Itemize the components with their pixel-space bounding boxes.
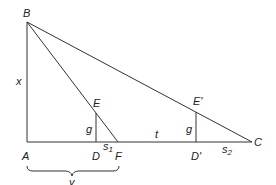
label-x: x: [15, 75, 22, 87]
label-s2: s2: [222, 143, 233, 157]
label-e: E: [93, 97, 101, 109]
label-f: F: [115, 150, 123, 162]
label-y: y: [68, 176, 76, 185]
label-c: C: [254, 136, 262, 148]
label-g-right: g: [186, 123, 193, 135]
segment-bc: [27, 22, 252, 142]
label-d-prime: D': [191, 150, 202, 162]
y-brace: [27, 166, 119, 176]
label-e-prime: E': [193, 95, 203, 107]
label-a: A: [21, 150, 29, 162]
label-b: B: [23, 7, 30, 19]
geometry-diagram: B A D F D' C E E' x y g g t s1 s2: [0, 0, 276, 185]
segment-bf: [27, 22, 118, 142]
label-t: t: [155, 128, 159, 140]
label-g-left: g: [86, 123, 93, 135]
label-d: D: [92, 150, 100, 162]
